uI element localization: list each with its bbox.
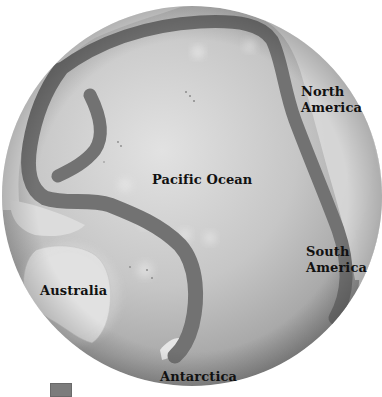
- globe-map: [0, 0, 382, 397]
- label-pacific-ocean: Pacific Ocean: [152, 172, 252, 188]
- label-north-america-line2: America: [301, 100, 362, 116]
- label-australia: Australia: [40, 283, 107, 299]
- label-south-america-line2: America: [306, 260, 367, 276]
- label-south-america: South America: [306, 244, 367, 276]
- label-north-america: North America: [301, 84, 362, 116]
- globe-rim-shade: [2, 6, 382, 386]
- label-south-america-line1: South: [306, 244, 367, 260]
- label-north-america-line1: North: [301, 84, 362, 100]
- legend: [50, 383, 78, 397]
- legend-swatch: [50, 383, 72, 397]
- label-antarctica: Antarctica: [160, 369, 237, 385]
